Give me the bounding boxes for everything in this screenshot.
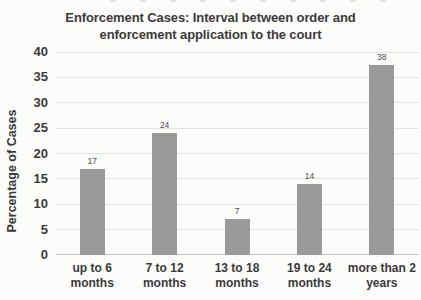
x-tick-label-line: up to 6 xyxy=(56,261,128,276)
x-tick-label-line: 7 to 12 xyxy=(128,261,200,276)
plot-area: 172471438 xyxy=(56,52,418,255)
y-tick-label: 20 xyxy=(0,146,48,162)
x-tick-label: 7 to 12months xyxy=(128,261,200,290)
x-tick-label-line: months xyxy=(201,276,273,291)
x-tick-label-line: 19 to 24 xyxy=(273,261,345,276)
x-tick-label-line: months xyxy=(273,276,345,291)
y-tick-label: 25 xyxy=(0,120,48,136)
bar-value-label: 17 xyxy=(87,156,96,166)
x-tick-label: more than 2years xyxy=(346,261,418,290)
x-tick-label-line: months xyxy=(128,276,200,291)
bar-column: 17 xyxy=(56,52,128,255)
x-tick-label: up to 6months xyxy=(56,261,128,290)
bar xyxy=(152,133,177,255)
y-tick-label: 30 xyxy=(0,95,48,111)
x-tick-label-line: years xyxy=(346,276,418,291)
bar xyxy=(369,65,394,255)
y-tick-label: 5 xyxy=(0,222,48,238)
bar-value-label: 24 xyxy=(160,120,169,130)
bar-column: 7 xyxy=(201,52,273,255)
bar-column: 14 xyxy=(273,52,345,255)
x-axis-tick-labels: up to 6months7 to 12months13 to 18months… xyxy=(56,261,418,290)
bar-series: 172471438 xyxy=(56,52,418,255)
bar xyxy=(80,169,105,255)
chart-title: Enforcement Cases: Interval between orde… xyxy=(50,9,371,43)
x-tick-label-line: 13 to 18 xyxy=(201,261,273,276)
y-axis-tick-labels: 0510152025303540 xyxy=(0,52,48,255)
bar-value-label: 14 xyxy=(305,171,314,181)
bar xyxy=(225,219,250,255)
y-tick-label: 0 xyxy=(0,247,48,263)
y-tick-label: 40 xyxy=(0,44,48,60)
bar-value-label: 38 xyxy=(377,52,386,62)
x-tick-label-line: more than 2 xyxy=(346,261,418,276)
bar xyxy=(297,184,322,255)
y-tick-label: 10 xyxy=(0,196,48,212)
bar-column: 38 xyxy=(346,52,418,255)
x-tick-label-line: months xyxy=(56,276,128,291)
x-tick-label: 13 to 18months xyxy=(201,261,273,290)
y-tick-label: 35 xyxy=(0,69,48,85)
y-tick-label: 15 xyxy=(0,171,48,187)
bar-column: 24 xyxy=(128,52,200,255)
bar-value-label: 7 xyxy=(235,206,240,216)
cropped-text-artifact xyxy=(110,0,410,2)
enforcement-cases-bar-chart: Enforcement Cases: Interval between orde… xyxy=(0,0,421,300)
x-tick-label: 19 to 24months xyxy=(273,261,345,290)
